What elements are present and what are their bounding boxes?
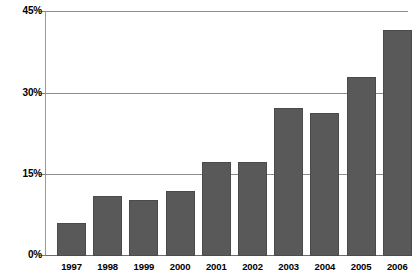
bar-2002 (238, 162, 267, 256)
bar-1999 (129, 200, 158, 256)
y-axis-label-0: 0% (2, 250, 42, 260)
x-axis-label-2002: 2002 (234, 261, 271, 272)
bar-1997 (57, 223, 86, 256)
bar-chart: 45% 30% 15% 0% 1997199819992000200120022… (0, 0, 413, 276)
bar-2001 (202, 162, 231, 256)
bar-2000 (166, 191, 195, 256)
y-axis-label-45: 45% (2, 6, 42, 16)
x-axis-label-2006: 2006 (379, 261, 413, 272)
x-axis-label-2000: 2000 (162, 261, 199, 272)
y-axis-label-30: 30% (2, 88, 42, 98)
x-axis-label-2004: 2004 (306, 261, 343, 272)
x-axis-label-1997: 1997 (53, 261, 90, 272)
x-axis-label-2001: 2001 (198, 261, 235, 272)
plot-area (46, 11, 408, 256)
x-axis-label-1999: 1999 (125, 261, 162, 272)
bar-2003 (274, 108, 303, 256)
bar-2006 (383, 30, 412, 256)
x-axis-label-2005: 2005 (343, 261, 380, 272)
bar-2004 (310, 113, 339, 256)
bar-2005 (347, 77, 376, 256)
x-axis-label-1998: 1998 (89, 261, 126, 272)
bar-1998 (93, 196, 122, 256)
x-axis-label-2003: 2003 (270, 261, 307, 272)
y-axis-label-15: 15% (2, 169, 42, 179)
